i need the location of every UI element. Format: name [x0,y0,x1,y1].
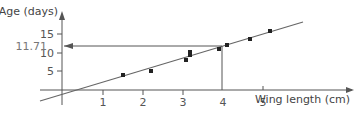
x-tick-label: 2 [140,96,147,109]
data-point [184,58,188,62]
x-tick-label: 3 [180,96,187,109]
y-axis-arrow-icon [59,11,65,20]
regression-line [40,22,303,101]
y-axis-title: Age (days) [0,5,58,18]
data-point [217,47,221,51]
chart: 1 2 3 4 5 Wing length (cm) 15 10 5 Age (… [0,0,364,114]
annotation-value-label: 11.71 [16,40,48,53]
data-point [149,69,153,73]
data-point [121,73,125,77]
x-tick-label: 4 [220,96,227,109]
data-point [188,50,192,54]
data-point [268,29,272,33]
x-tick-label: 1 [100,96,107,109]
data-point [225,43,229,47]
x-axis-title: Wing length (cm) [255,93,350,106]
data-point [248,37,252,41]
y-tick-label: 5 [47,65,54,78]
x-axis: 1 2 3 4 5 Wing length (cm) [40,86,354,109]
arrow-left-icon [64,43,73,49]
